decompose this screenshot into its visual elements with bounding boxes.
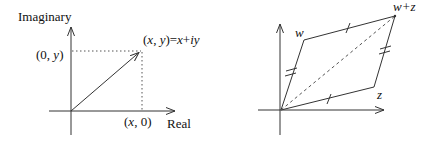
w-plus-z-label: w+z: [393, 0, 416, 14]
complex-plane-figure: Imaginary (0, y) (x, y)=x+iy (x, 0) Real…: [0, 0, 436, 145]
position-vector: [71, 53, 139, 112]
side-w-sum: [304, 16, 395, 40]
x-projection-label: (x, 0): [124, 114, 151, 129]
side-z-sum: [374, 16, 395, 87]
point-label: (x, y)=x+iy: [143, 32, 200, 47]
tick-double-left-2: [285, 73, 296, 76]
z-label: z: [376, 87, 382, 102]
y-projection-label: (0, y): [36, 47, 63, 62]
tick-single-bottom: [327, 94, 331, 104]
imaginary-axis-label: Imaginary: [18, 9, 72, 24]
sum-point: [394, 15, 396, 17]
left-diagram: Imaginary (0, y) (x, y)=x+iy (x, 0) Real: [18, 9, 200, 135]
side-origin-w: [281, 40, 304, 110]
tick-double-left-1: [286, 68, 297, 71]
real-axis-label: Real: [167, 116, 191, 131]
w-label: w: [295, 25, 304, 40]
right-diagram: w z w+z: [258, 0, 416, 135]
